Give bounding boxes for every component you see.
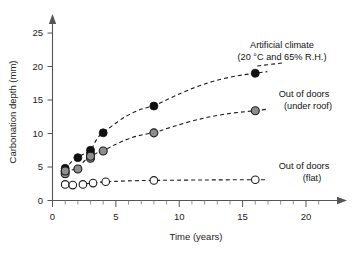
y-tick-label: 20	[32, 61, 43, 72]
series-1	[61, 107, 267, 178]
data-point	[74, 154, 82, 162]
series-label-under-roof-line1: Out of doors	[279, 89, 330, 99]
x-axis-arrow-icon	[337, 197, 347, 204]
trend-line-0	[65, 72, 267, 170]
series-label-under-roof-line2: (under roof)	[284, 101, 332, 111]
data-point	[99, 147, 107, 155]
data-point	[251, 69, 259, 77]
y-tick-label: 25	[32, 27, 43, 38]
x-tick-labels: 05101520	[50, 211, 311, 222]
x-tick-label: 5	[113, 211, 118, 222]
data-point	[69, 181, 77, 189]
data-point	[102, 178, 110, 186]
data-point	[87, 152, 95, 160]
x-axis-title: Time (years)	[170, 231, 223, 242]
y-tick-label: 15	[32, 94, 43, 105]
carbonation-depth-chart: 0510152025 Carbonation depth (mm) 051015…	[0, 0, 359, 258]
y-tick-label: 5	[38, 161, 43, 172]
data-point	[251, 107, 259, 115]
y-axis-title: Carbonation depth (mm)	[7, 61, 18, 164]
series-2	[61, 176, 267, 189]
data-series-layer	[61, 63, 282, 189]
data-point	[251, 176, 259, 184]
data-point	[61, 181, 69, 189]
y-axis-group: 0510152025 Carbonation depth (mm)	[7, 14, 56, 206]
y-axis-arrow-icon	[49, 14, 56, 24]
data-point	[61, 167, 69, 175]
data-point	[150, 177, 158, 185]
label-leader-line	[255, 63, 282, 66]
x-tick-label: 10	[174, 211, 185, 222]
series-label-artificial-climate-line1: Artificial climate	[250, 40, 314, 50]
data-point	[150, 102, 158, 110]
x-axis-group: 05101520 Time (years)	[50, 197, 347, 242]
x-tick-label: 0	[50, 211, 55, 222]
y-tick-label: 0	[38, 195, 43, 206]
chart-svg: 0510152025 Carbonation depth (mm) 051015…	[0, 0, 359, 258]
data-point	[79, 181, 87, 189]
series-label-flat-line2: (flat)	[303, 173, 321, 183]
x-tick-label: 15	[237, 211, 248, 222]
y-tick-marks	[48, 33, 53, 200]
data-point	[89, 179, 97, 187]
data-point	[74, 165, 82, 173]
x-minor-tick-marks	[65, 201, 318, 205]
data-point	[99, 129, 107, 137]
series-label-artificial-climate-line2: (20 °C and 65% R.H.)	[238, 52, 327, 62]
y-tick-label: 10	[32, 128, 43, 139]
y-tick-labels: 0510152025	[32, 27, 43, 205]
data-point	[150, 129, 158, 137]
series-label-flat-line1: Out of doors	[279, 161, 330, 171]
x-tick-label: 20	[301, 211, 312, 222]
